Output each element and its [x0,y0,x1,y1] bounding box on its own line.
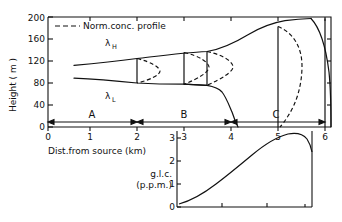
x-tick-1: 1 [87,132,93,142]
x-tick-6: 6 [322,132,328,142]
glc-y-tick-3: 3 [169,133,175,143]
glc-axis-title-line2: (p.p.m.) [136,180,172,190]
curve-lambda-l [74,78,238,127]
x-tick-0: 0 [45,132,51,142]
curve-glc [179,133,312,204]
region-a-arrow-left [48,120,54,125]
glc-y-tick-0: 0 [169,202,175,212]
curve-right-closure [311,19,331,128]
glc-plot-frame [177,131,312,207]
y-tick-160: 160 [28,34,45,44]
region-c-arrow-left [231,120,237,125]
region-labels: A B C [89,109,280,120]
main-x-ticklabels: 0 1 2 3 4 5 6 [45,132,328,142]
main-x-ticks [48,127,325,131]
curve-label-lambda-l: λ L [105,91,116,104]
glc-axis-title-line1: g.l.c. [150,169,172,179]
profile-section-station-5 [278,27,302,128]
lambda-h-symbol: λ [105,38,111,48]
y-tick-0: 0 [39,122,45,132]
x-tick-2: 2 [134,132,140,142]
glc-x-ticks [222,203,305,207]
main-y-axis-title: Height ( m ) [8,58,18,112]
region-label-b: B [181,109,188,120]
main-y-ticklabels: 0 40 80 120 160 200 [28,13,45,132]
chart-canvas: 0 40 80 120 160 200 Height ( m ) 0 1 [0,0,342,222]
legend: Norm.conc. profile [55,21,166,31]
lambda-l-subscript: L [112,96,116,104]
y-tick-200: 200 [28,13,45,23]
region-markers [48,120,325,125]
profile-section-station-4 [207,52,233,86]
region-label-a: A [89,109,96,120]
y-axis-title-text: Height ( m ) [8,58,18,112]
x-tick-3: 3 [181,132,187,142]
glc-y-tick-2: 2 [169,156,175,166]
profile-section-station-3 [184,53,209,85]
lambda-h-subscript: H [112,43,117,51]
lambda-l-symbol: λ [105,91,111,101]
glc-y-ticks [177,138,181,207]
glc-y-axis-title: g.l.c. (p.p.m.) [136,169,172,190]
profile-section-station-2 [137,59,160,84]
y-tick-120: 120 [28,56,45,66]
region-b-arrow-left [137,120,143,125]
main-y-ticks [48,17,53,127]
legend-label: Norm.conc. profile [83,21,166,31]
curve-label-lambda-h: λ H [105,38,117,51]
x-axis-title: Dist.from source (km) [48,146,146,156]
y-tick-40: 40 [34,100,46,110]
curve-plume-base-plateau [184,84,207,85]
y-tick-80: 80 [34,78,46,88]
x-tick-4: 4 [228,132,234,142]
region-label-c: C [273,109,280,120]
figure-root: 0 40 80 120 160 200 Height ( m ) 0 1 [0,0,342,222]
region-c-arrow-right [319,120,325,125]
